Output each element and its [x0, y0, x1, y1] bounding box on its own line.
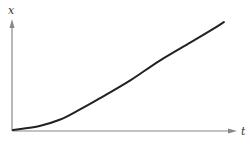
x-axis-label: t	[241, 125, 246, 138]
y-axis-arrow-icon	[10, 19, 15, 28]
x-axis-arrow-icon	[228, 129, 237, 134]
motion-graph: x t	[0, 0, 250, 145]
y-axis-label: x	[8, 4, 15, 17]
position-curve	[13, 22, 224, 130]
